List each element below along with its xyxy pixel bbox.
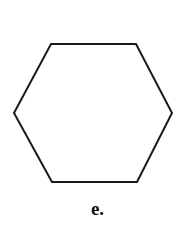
figure-panel: e.	[0, 0, 181, 226]
figure-caption-label: e.	[0, 198, 181, 220]
hexagon-shape	[14, 44, 172, 182]
hexagon-svg	[0, 0, 181, 196]
shape-canvas	[0, 0, 181, 196]
